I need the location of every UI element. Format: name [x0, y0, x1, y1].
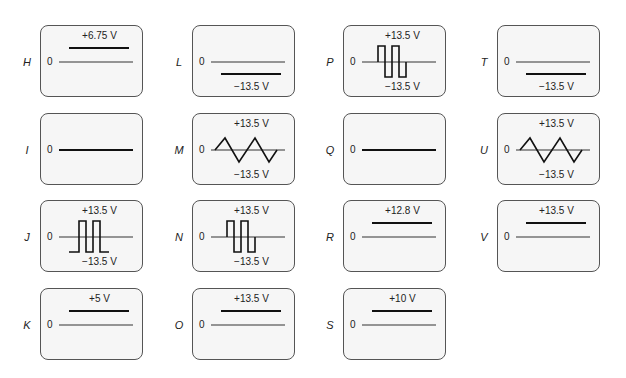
top-voltage-label: +13.5 V [352, 30, 453, 41]
panel-V: V0+13.5 V [469, 200, 619, 280]
panel-letter: O [172, 319, 186, 331]
waveform-box: 0+13.5 V−13.5 V [497, 113, 600, 185]
waveform-box: 0 [343, 113, 446, 185]
waveform-box: 0+13.5 V−13.5 V [343, 25, 446, 97]
panel-letter: I [20, 144, 34, 156]
bottom-voltage-label: −13.5 V [506, 169, 607, 180]
waveform-trace [344, 114, 445, 184]
waveform-box: 0+6.75 V [40, 25, 143, 97]
bottom-voltage-label: −13.5 V [49, 256, 150, 267]
bottom-voltage-label: −13.5 V [201, 169, 302, 180]
waveform-box: 0+13.5 V [497, 200, 600, 272]
bottom-voltage-label: −13.5 V [506, 81, 607, 92]
top-voltage-label: +13.5 V [506, 205, 607, 216]
top-voltage-label: +12.8 V [352, 205, 453, 216]
panel-I: I0 [12, 113, 162, 193]
panel-L: L0−13.5 V [164, 25, 314, 105]
waveform-trace [41, 114, 142, 184]
panel-U: U0+13.5 V−13.5 V [469, 113, 619, 193]
bottom-voltage-label: −13.5 V [201, 256, 302, 267]
top-voltage-label: +13.5 V [506, 118, 607, 129]
panel-letter: J [20, 231, 34, 243]
panel-letter: L [172, 56, 186, 68]
panel-letter: Q [323, 144, 337, 156]
panel-R: R0+12.8 V [315, 200, 465, 280]
top-voltage-label: +13.5 V [201, 293, 302, 304]
waveform-box: 0+13.5 V−13.5 V [192, 200, 295, 272]
top-voltage-label: +5 V [49, 293, 150, 304]
top-voltage-label: +10 V [352, 293, 453, 304]
waveform-box: 0+13.5 V [192, 288, 295, 360]
panel-K: K0+5 V [12, 288, 162, 368]
top-voltage-label: +13.5 V [201, 205, 302, 216]
waveform-box: 0+13.5 V−13.5 V [192, 113, 295, 185]
panel-letter: T [477, 56, 491, 68]
panel-M: M0+13.5 V−13.5 V [164, 113, 314, 193]
panel-H: H0+6.75 V [12, 25, 162, 105]
waveform-box: 0+10 V [343, 288, 446, 360]
panel-N: N0+13.5 V−13.5 V [164, 200, 314, 280]
bottom-voltage-label: −13.5 V [352, 81, 453, 92]
panel-Q: Q0 [315, 113, 465, 193]
panel-letter: U [477, 144, 491, 156]
waveform-box: 0−13.5 V [497, 25, 600, 97]
panel-letter: V [477, 231, 491, 243]
waveform-box: 0+5 V [40, 288, 143, 360]
top-voltage-label: +6.75 V [49, 30, 150, 41]
panel-O: O0+13.5 V [164, 288, 314, 368]
panel-letter: P [323, 56, 337, 68]
panel-P: P0+13.5 V−13.5 V [315, 25, 465, 105]
panel-letter: H [20, 56, 34, 68]
panel-S: S0+10 V [315, 288, 465, 368]
panel-letter: K [20, 319, 34, 331]
panel-letter: N [172, 231, 186, 243]
bottom-voltage-label: −13.5 V [201, 81, 302, 92]
waveform-box: 0+13.5 V−13.5 V [40, 200, 143, 272]
waveform-box: 0−13.5 V [192, 25, 295, 97]
panel-letter: S [323, 319, 337, 331]
waveform-box: 0 [40, 113, 143, 185]
panel-T: T0−13.5 V [469, 25, 619, 105]
top-voltage-label: +13.5 V [201, 118, 302, 129]
panel-letter: R [323, 231, 337, 243]
waveform-box: 0+12.8 V [343, 200, 446, 272]
panel-J: J0+13.5 V−13.5 V [12, 200, 162, 280]
top-voltage-label: +13.5 V [49, 205, 150, 216]
panel-letter: M [172, 144, 186, 156]
